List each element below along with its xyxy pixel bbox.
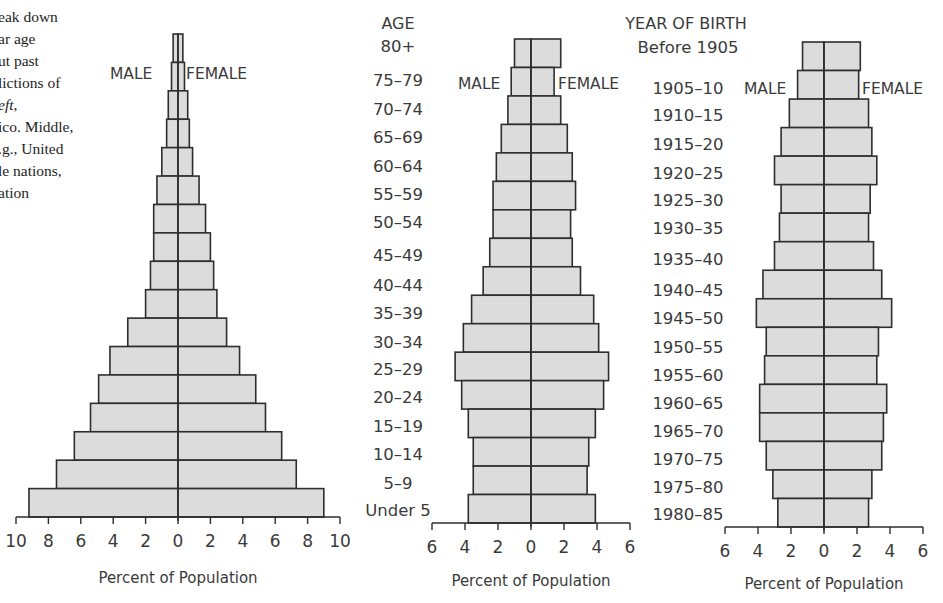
bar-male <box>493 210 531 238</box>
age-label: 60–64 <box>373 157 423 176</box>
x-tick-label: 6 <box>270 531 281 551</box>
bar-female <box>178 34 183 62</box>
bar-male <box>473 466 531 494</box>
female-label: FEMALE <box>186 65 247 83</box>
x-tick-label: 6 <box>918 541 929 561</box>
bar-male <box>760 413 824 442</box>
bar-female <box>178 233 210 261</box>
age-label: 50–54 <box>373 213 423 232</box>
age-label: 10–14 <box>373 445 423 464</box>
bar-female <box>824 156 877 185</box>
bar-male <box>462 381 531 409</box>
bar-male <box>760 384 824 413</box>
age-label: 40–44 <box>373 276 423 295</box>
bar-male <box>803 42 824 71</box>
bar-male <box>781 185 824 214</box>
bar-female <box>824 185 870 214</box>
year-of-birth-label: 1945–50 <box>652 309 723 328</box>
age-label: 35–39 <box>373 304 423 323</box>
bar-male <box>778 498 824 527</box>
bar-male <box>146 290 178 318</box>
bar-female <box>824 242 874 271</box>
bar-female <box>824 71 859 100</box>
bar-female <box>178 318 227 346</box>
bar-male <box>483 267 531 295</box>
x-tick-label: 0 <box>526 537 537 557</box>
bar-female <box>178 403 265 431</box>
bar-male <box>172 62 178 90</box>
bar-male <box>154 204 178 232</box>
bar-female <box>824 42 860 71</box>
population-pyramids: 1086420246810Percent of PopulationMALEFE… <box>0 0 943 603</box>
x-tick-label: 0 <box>819 541 830 561</box>
x-tick-label: 4 <box>753 541 764 561</box>
bar-male <box>765 356 824 385</box>
x-tick-label: 6 <box>625 537 636 557</box>
bar-male <box>168 91 178 119</box>
bar-female <box>178 290 217 318</box>
bar-male <box>468 409 531 437</box>
age-label: 70–74 <box>373 100 423 119</box>
bar-male <box>57 460 179 488</box>
age-label: 55–59 <box>373 185 423 204</box>
bar-female <box>178 347 240 375</box>
bar-female <box>531 124 567 152</box>
pyramid-right-zero-growth: 6420246Percent of PopulationMALEFEMALE <box>720 42 929 593</box>
pyramid-middle-slow-growth: 6420246Percent of PopulationMALEFEMALE <box>427 39 636 590</box>
x-tick-label: 4 <box>592 537 603 557</box>
x-tick-label: 6 <box>75 531 86 551</box>
x-tick-label: 4 <box>885 541 896 561</box>
bar-male <box>779 213 824 242</box>
x-tick-label: 4 <box>460 537 471 557</box>
bar-male <box>773 470 824 499</box>
age-label: Under 5 <box>365 501 431 520</box>
bar-male <box>775 156 825 185</box>
bar-female <box>824 299 892 328</box>
x-tick-label: 2 <box>786 541 797 561</box>
bar-female <box>178 375 256 403</box>
x-axis-title: Percent of Population <box>744 575 903 593</box>
bar-female <box>531 495 595 523</box>
bar-male <box>496 153 531 181</box>
bar-male <box>463 324 531 352</box>
bar-female <box>824 384 887 413</box>
year-of-birth-label: 1910–15 <box>652 106 723 125</box>
bar-female <box>178 432 282 460</box>
bar-male <box>766 327 824 356</box>
bar-female <box>178 62 184 90</box>
x-tick-label: 2 <box>559 537 570 557</box>
bar-male <box>91 403 178 431</box>
bar-male <box>493 181 531 209</box>
year-of-birth-label: 1960–65 <box>652 394 723 413</box>
year-of-birth-label: 1940–45 <box>652 281 723 300</box>
bar-male <box>473 438 531 466</box>
bar-male <box>154 233 178 261</box>
year-of-birth-label: 1905–10 <box>652 79 723 98</box>
x-tick-label: 4 <box>108 531 119 551</box>
year-of-birth-label: 1950–55 <box>652 338 723 357</box>
bar-female <box>531 96 561 124</box>
year-of-birth-label: Before 1905 <box>637 38 738 57</box>
bar-female <box>531 238 572 266</box>
bar-female <box>531 210 571 238</box>
x-tick-label: 4 <box>237 531 248 551</box>
bar-female <box>824 470 872 499</box>
bar-female <box>824 128 872 157</box>
bar-male <box>511 67 531 95</box>
bar-female <box>178 489 324 517</box>
age-label: 25–29 <box>373 360 423 379</box>
bar-female <box>824 99 869 128</box>
bar-male <box>501 124 531 152</box>
bar-female <box>824 498 869 527</box>
age-label: 15–19 <box>373 417 423 436</box>
age-header: AGE <box>381 14 414 33</box>
bar-female <box>531 438 589 466</box>
bar-female <box>824 413 883 442</box>
bar-female <box>824 327 878 356</box>
bar-male <box>775 242 825 271</box>
age-label: 5–9 <box>383 474 412 493</box>
bar-male <box>110 347 178 375</box>
bar-female <box>531 466 587 494</box>
bar-male <box>508 96 531 124</box>
bar-female <box>531 295 594 323</box>
